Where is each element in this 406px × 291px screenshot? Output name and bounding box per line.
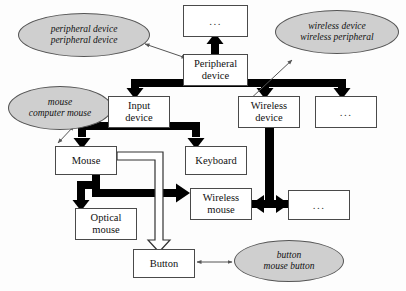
edge-mouse-branch-bus xyxy=(73,175,191,211)
ellipse-mouse[interactable]: mousecomputer mouse xyxy=(8,86,112,130)
box-peripheral-device-label: Peripheraldevice xyxy=(194,58,237,82)
box-peripheral-device-line-1: device xyxy=(194,70,237,82)
box-button-label: Button xyxy=(150,258,179,270)
ellipse-wireless-line-0: wireless device xyxy=(300,21,373,33)
box-mouse[interactable]: Mouse xyxy=(55,146,117,175)
ellipse-mouse-line-0: mouse xyxy=(29,97,92,109)
box-right-dots-1[interactable]: ... xyxy=(315,96,377,128)
taxonomy-diagram: peripheral deviceperipheral devicewirele… xyxy=(0,0,406,291)
ellipse-mouse-label: mousecomputer mouse xyxy=(29,97,92,120)
box-top-dots[interactable]: ... xyxy=(183,5,248,37)
edge-wireless-device-branch xyxy=(251,128,289,213)
box-input-device[interactable]: Inputdevice xyxy=(108,96,170,128)
ellipse-mouse-line-1: computer mouse xyxy=(29,108,92,120)
box-keyboard-label: Keyboard xyxy=(195,155,236,167)
box-optical-mouse[interactable]: Opticalmouse xyxy=(75,208,137,240)
box-optical-mouse-line-0: Optical xyxy=(91,212,122,224)
box-right-dots-2-line-0: ... xyxy=(313,199,326,211)
box-optical-mouse-line-1: mouse xyxy=(91,224,122,236)
box-wireless-device[interactable]: Wirelessdevice xyxy=(238,96,300,128)
box-input-device-label: Inputdevice xyxy=(125,100,152,124)
box-peripheral-device[interactable]: Peripheraldevice xyxy=(183,54,248,86)
edge-ellipse-peripheral-link xyxy=(145,44,186,58)
ellipse-peripheral[interactable]: peripheral deviceperipheral device xyxy=(18,13,150,57)
box-right-dots-2[interactable]: ... xyxy=(288,190,350,220)
box-top-dots-label: ... xyxy=(209,15,222,27)
ellipse-wireless-label: wireless devicewireless peripheral xyxy=(300,21,373,44)
box-button[interactable]: Button xyxy=(133,249,195,278)
box-keyboard[interactable]: Keyboard xyxy=(185,146,247,175)
box-input-device-line-1: device xyxy=(125,112,152,124)
box-input-device-line-0: Input xyxy=(125,100,152,112)
box-mouse-line-0: Mouse xyxy=(72,155,101,167)
ellipse-peripheral-line-1: peripheral device xyxy=(51,35,118,47)
box-wireless-device-line-1: device xyxy=(251,112,287,124)
ellipse-peripheral-label: peripheral deviceperipheral device xyxy=(51,24,118,47)
ellipse-wireless[interactable]: wireless devicewireless peripheral xyxy=(275,10,399,54)
box-optical-mouse-label: Opticalmouse xyxy=(91,212,122,236)
box-wireless-device-label: Wirelessdevice xyxy=(251,100,287,124)
box-wireless-mouse[interactable]: Wirelessmouse xyxy=(190,188,252,220)
ellipse-button-line-1: mouse button xyxy=(264,261,315,273)
ellipse-button[interactable]: buttonmouse button xyxy=(234,240,344,282)
ellipse-button-label: buttonmouse button xyxy=(264,250,315,273)
box-wireless-mouse-label: Wirelessmouse xyxy=(203,192,239,216)
box-right-dots-1-line-0: ... xyxy=(340,106,353,118)
box-wireless-mouse-line-0: Wireless xyxy=(203,192,239,204)
ellipse-button-line-0: button xyxy=(264,250,315,262)
box-wireless-device-line-0: Wireless xyxy=(251,100,287,112)
box-button-line-0: Button xyxy=(150,258,179,270)
ellipse-peripheral-line-0: peripheral device xyxy=(51,24,118,36)
box-wireless-mouse-line-1: mouse xyxy=(203,204,239,216)
box-peripheral-device-line-0: Peripheral xyxy=(194,58,237,70)
box-keyboard-line-0: Keyboard xyxy=(195,155,236,167)
ellipse-wireless-line-1: wireless peripheral xyxy=(300,32,373,44)
box-right-dots-2-label: ... xyxy=(313,199,326,211)
box-top-dots-line-0: ... xyxy=(209,15,222,27)
box-mouse-label: Mouse xyxy=(72,155,101,167)
box-right-dots-1-label: ... xyxy=(340,106,353,118)
